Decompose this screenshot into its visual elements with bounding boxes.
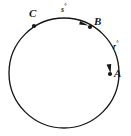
arc-measure-label-s: s° [61, 3, 67, 14]
degree-symbol-r: ° [116, 40, 118, 46]
point-label-B: B [94, 16, 101, 27]
point-marker-A [108, 72, 112, 76]
degree-symbol-s: ° [64, 3, 66, 9]
point-label-A: A [114, 68, 121, 79]
point-marker-C [32, 24, 36, 28]
geometry-figure: C B A s° r° [0, 0, 131, 136]
main-circle [9, 18, 119, 128]
point-label-C: C [29, 8, 36, 19]
circle-diagram-svg [0, 0, 131, 136]
arc-measure-label-r: r° [113, 40, 119, 51]
point-marker-B [88, 25, 92, 29]
